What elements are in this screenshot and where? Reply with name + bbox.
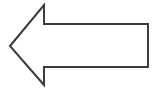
drawing-canvas — [0, 0, 158, 89]
left-arrow-icon — [10, 5, 148, 85]
arrow-shape-svg — [0, 0, 158, 89]
